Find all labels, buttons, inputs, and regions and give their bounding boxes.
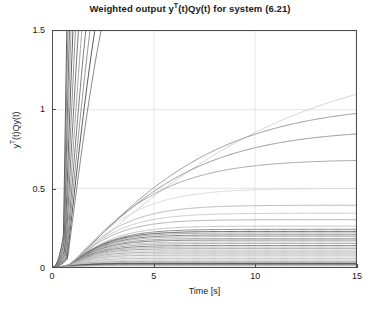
chart-title: Weighted output yT(t)Qy(t) for system (6…	[0, 3, 380, 14]
x-tick-mark	[255, 264, 256, 268]
y-tick-label: 1.5	[32, 25, 45, 35]
y-tick-mark	[52, 189, 56, 190]
x-tick-label: 15	[352, 271, 362, 281]
plot-area	[52, 30, 357, 268]
x-tick-label: 10	[250, 271, 260, 281]
x-tick-mark	[154, 264, 155, 268]
x-tick-mark	[357, 264, 358, 268]
x-tick-label: 0	[49, 271, 54, 281]
x-axis-label: Time [s]	[52, 286, 357, 296]
data-curve	[53, 266, 356, 267]
y-tick-label: 1	[40, 104, 45, 114]
y-tick-label: 0	[40, 263, 45, 273]
chart-figure: Weighted output yT(t)Qy(t) for system (6…	[0, 0, 380, 312]
y-tick-mark	[52, 30, 56, 31]
x-tick-label: 5	[151, 271, 156, 281]
data-curves	[53, 31, 356, 267]
y-tick-mark	[52, 109, 56, 110]
y-tick-label: 0.5	[32, 184, 45, 194]
y-axis-tick-labels: 00.511.5	[0, 0, 50, 312]
